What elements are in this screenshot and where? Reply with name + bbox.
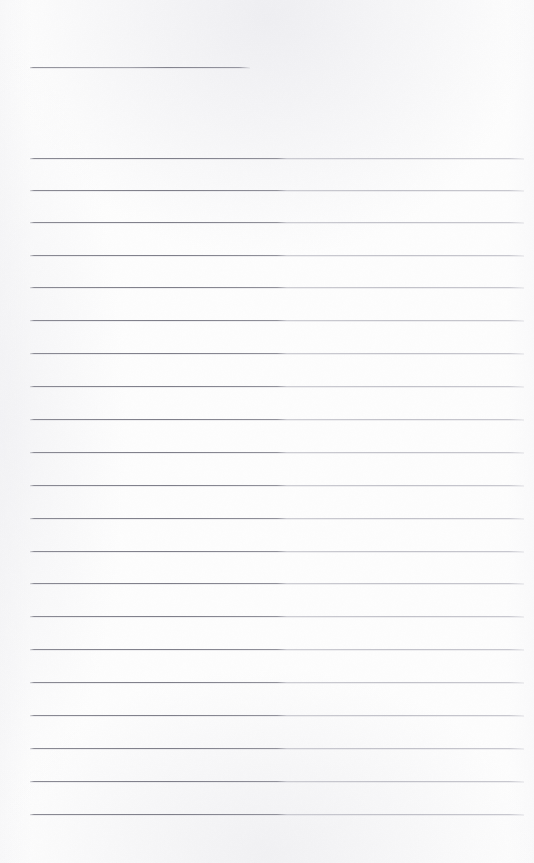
rule-9: [30, 419, 524, 420]
rule-14: [30, 583, 524, 584]
rule-2: [30, 190, 524, 191]
rule-11: [30, 485, 524, 486]
rule-21: [30, 814, 524, 815]
rule-8: [30, 386, 524, 387]
rule-15: [30, 616, 524, 617]
rule-19: [30, 748, 524, 749]
rule-13: [30, 551, 524, 552]
rule-16: [30, 649, 524, 650]
rule-12: [30, 518, 524, 519]
rule-4: [30, 255, 524, 256]
ruled-lines-layer: [0, 0, 534, 863]
rule-1: [30, 158, 524, 159]
short-top-rule: [30, 67, 250, 68]
rule-3: [30, 222, 524, 223]
rule-18: [30, 715, 524, 716]
rule-7: [30, 353, 524, 354]
rule-5: [30, 287, 524, 288]
rule-17: [30, 682, 524, 683]
rule-10: [30, 452, 524, 453]
scanned-page: [0, 0, 534, 863]
rule-6: [30, 320, 524, 321]
rule-20: [30, 781, 524, 782]
